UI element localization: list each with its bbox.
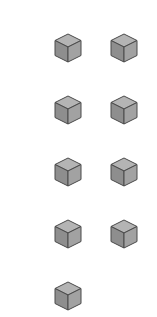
cube-icon-9 [54, 281, 82, 311]
cube-icon-7 [54, 219, 82, 249]
cube-icon-8 [110, 219, 138, 249]
cube-icon-3 [54, 95, 82, 125]
cube-icon-1 [54, 33, 82, 63]
cube-icon-6 [110, 157, 138, 187]
cube-icon-4 [110, 95, 138, 125]
cube-icon-2 [110, 33, 138, 63]
cube-icon-5 [54, 157, 82, 187]
